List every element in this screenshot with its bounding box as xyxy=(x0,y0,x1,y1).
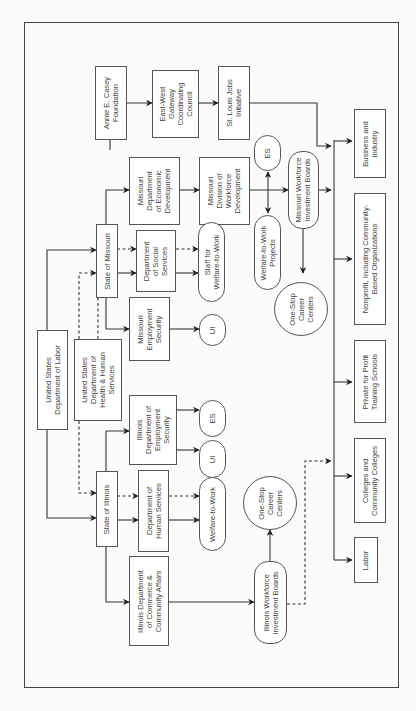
node-label: Missouri Department of Economic Developm… xyxy=(137,169,173,214)
node-label: Department of Human Services xyxy=(145,483,163,539)
node-label: State of Illinois xyxy=(103,484,112,533)
node-staff-for-welfare-to-work: Staff for Welfare-to-Work xyxy=(198,222,225,302)
node-label: UI xyxy=(208,326,217,334)
node-label: Missouri Division of Workforce Developme… xyxy=(207,169,243,214)
node-label: St. Louis Jobs Initiative xyxy=(225,79,243,127)
node-label: ES xyxy=(208,413,217,423)
node-label: East-West Gateway Coordinating Council xyxy=(158,82,194,125)
node-label: Department of Social Services xyxy=(143,241,170,281)
node-illinois-ui: UI xyxy=(199,440,226,478)
node-illinois-one-stop-career-centers: One-Stop Career Centers xyxy=(243,476,297,530)
node-labor: Labor xyxy=(354,537,378,583)
node-label: Nonprofit, Including Community- Based Or… xyxy=(361,205,379,313)
node-department-of-human-services: Department of Human Services xyxy=(138,470,169,552)
node-label: One-Stop Career Centers xyxy=(287,293,314,326)
node-label: Staff for Welfare-to-Work xyxy=(203,235,221,290)
node-label: Missouri Employment Security xyxy=(136,308,163,350)
node-us-department-of-labor: United States Department of Labor xyxy=(37,330,68,430)
node-label: State of Missouri xyxy=(103,233,112,290)
node-label: Welfare-to-Work Projects xyxy=(259,225,277,280)
node-missouri-economic-development: Missouri Department of Economic Developm… xyxy=(129,157,180,225)
node-label: United States Department of Health & Hum… xyxy=(80,352,116,408)
node-state-of-illinois: State of Illinois xyxy=(96,471,118,547)
node-missouri-ui: UI xyxy=(199,314,226,346)
node-missouri-employment-security: Missouri Employment Security xyxy=(129,297,170,361)
node-state-of-missouri: State of Missouri xyxy=(96,224,118,298)
node-label: Private for Profit Training Schools xyxy=(361,353,379,409)
node-label: Business and Industry xyxy=(361,121,379,167)
node-welfare-to-work-projects: Welfare-to-Work Projects xyxy=(254,215,281,290)
node-label: Illinois Workforce Investment Boards xyxy=(262,571,280,634)
node-nonprofit-community-organizations: Nonprofit, Including Community- Based Or… xyxy=(354,193,386,325)
node-illinois-welfare-to-work: Welfare-to-Work xyxy=(199,477,226,551)
node-label: ES xyxy=(263,148,272,158)
node-label: UI xyxy=(208,455,217,463)
node-label: Illinois Department of Employment Securi… xyxy=(135,406,171,454)
node-illinois-workforce-investment-boards: Illinois Workforce Investment Boards xyxy=(254,561,287,644)
node-label: One-Stop Career Centers xyxy=(256,487,283,520)
node-private-for-profit-training-schools: Private for Profit Training Schools xyxy=(354,340,386,423)
node-label: Welfare-to-Work xyxy=(208,487,217,542)
node-label: Missouri Workforce Investment Boards xyxy=(295,158,313,223)
node-st-louis-jobs-initiative: St. Louis Jobs Initiative xyxy=(218,66,250,140)
node-missouri-es: ES xyxy=(254,135,281,171)
node-illinois-employment-security: Illinois Department of Employment Securi… xyxy=(129,395,177,465)
node-illinois-commerce-community-affairs: Illinois Department of Commerce & Commun… xyxy=(129,556,169,646)
node-business-and-industry: Business and Industry xyxy=(354,109,386,178)
node-label: Labor xyxy=(362,550,371,569)
node-east-west-gateway: East-West Gateway Coordinating Council xyxy=(152,70,199,138)
node-colleges-community-colleges: Colleges and Community Colleges xyxy=(354,438,386,523)
node-label: United States Department of Labor xyxy=(44,345,62,415)
node-missouri-workforce-investment-boards: Missouri Workforce Investment Boards xyxy=(288,151,319,229)
node-annie-casey-foundation: Annie E. Casey Foundation xyxy=(95,66,127,140)
node-missouri-one-stop-career-centers: One-Stop Career Centers xyxy=(274,282,328,336)
node-label: Annie E. Casey Foundation xyxy=(102,77,120,129)
node-label: Colleges and Community Colleges xyxy=(361,445,379,515)
node-us-health-human-services: United States Department of Health & Hum… xyxy=(74,339,122,421)
node-label: Illinois Department of Commerce & Commun… xyxy=(136,570,163,633)
node-missouri-workforce-development: Missouri Division of Workforce Developme… xyxy=(199,157,250,225)
node-department-of-social-services: Department of Social Services xyxy=(136,230,176,292)
node-illinois-es: ES xyxy=(199,400,226,437)
